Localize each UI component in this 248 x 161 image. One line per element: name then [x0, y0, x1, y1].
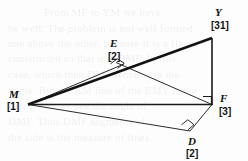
- segment-m-d: [28, 105, 190, 132]
- vertex-label-e: E: [110, 38, 117, 49]
- vertex-label-y: Y: [215, 7, 222, 18]
- vertex-label-f: F: [220, 93, 227, 104]
- vertex-value-e: [2]: [108, 52, 120, 62]
- geometry-figure: From MF to YM we have be well. The probl…: [0, 0, 248, 161]
- vertex-value-m: [1]: [7, 102, 19, 112]
- segment-m-y: [28, 38, 212, 105]
- segment-d-f: [190, 105, 212, 132]
- vertex-value-y: [31]: [211, 21, 229, 31]
- segment-e-f: [116, 63, 212, 105]
- vertex-value-d: [2]: [186, 149, 198, 159]
- vertex-label-m: M: [9, 89, 19, 100]
- vertex-value-f: [3]: [219, 107, 231, 117]
- vertex-label-d: D: [188, 136, 196, 147]
